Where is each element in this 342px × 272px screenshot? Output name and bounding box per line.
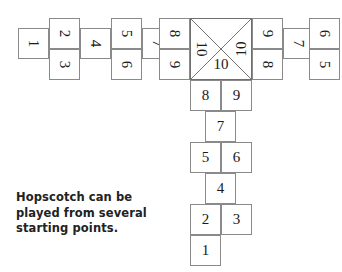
cell-bottom-6: 6 <box>221 142 252 173</box>
cell-number: 3 <box>233 212 241 227</box>
caption: Hopscotch can be played from several sta… <box>16 190 176 237</box>
cell-number: 9 <box>167 61 182 69</box>
cell-bottom-7: 7 <box>205 111 236 142</box>
cell-number: 3 <box>57 61 72 69</box>
cell-left-5: 5 <box>111 18 142 49</box>
cell-number: 9 <box>260 30 275 38</box>
cell-number: 2 <box>57 30 72 38</box>
cell-number: 1 <box>202 243 210 258</box>
cell-number: 1 <box>26 40 41 48</box>
caption-line-3: starting points. <box>16 221 176 237</box>
cell-left-3: 3 <box>49 49 80 80</box>
cell-left-6: 6 <box>111 49 142 80</box>
center-label-left: 10 <box>194 42 209 57</box>
caption-line-2: played from several <box>16 206 176 222</box>
cell-right-5: 5 <box>309 49 340 80</box>
cell-number: 5 <box>119 30 134 38</box>
center-label-right: 10 <box>234 42 249 57</box>
cell-number: 5 <box>317 61 332 69</box>
cell-bottom-1: 1 <box>190 235 221 266</box>
cell-number: 7 <box>291 40 306 48</box>
cell-left-9: 9 <box>159 49 190 80</box>
cell-number: 8 <box>167 30 182 38</box>
cell-number: 9 <box>233 88 241 103</box>
cell-number: 2 <box>202 212 210 227</box>
cell-number: 4 <box>217 181 225 196</box>
cell-bottom-4: 4 <box>205 173 236 204</box>
center-label-bottom: 10 <box>214 57 229 72</box>
cell-bottom-9: 9 <box>221 80 252 111</box>
cell-bottom-8: 8 <box>190 80 221 111</box>
hopscotch-diagram: 1 2 3 4 5 6 7 8 9 10 10 10 9 8 <box>0 0 342 272</box>
cell-number: 8 <box>202 88 210 103</box>
cell-number: 6 <box>317 30 332 38</box>
cell-number: 7 <box>217 119 225 134</box>
cell-number: 4 <box>88 40 103 48</box>
cell-number: 6 <box>233 150 241 165</box>
caption-line-1: Hopscotch can be <box>16 190 176 206</box>
cell-bottom-3: 3 <box>221 204 252 235</box>
cell-left-8: 8 <box>159 18 190 49</box>
cell-right-6: 6 <box>309 18 340 49</box>
cell-left-4: 4 <box>80 28 111 59</box>
cell-number: 8 <box>260 61 275 69</box>
cell-bottom-5: 5 <box>190 142 221 173</box>
cell-bottom-2: 2 <box>190 204 221 235</box>
cell-number: 5 <box>202 150 210 165</box>
center-square: 10 10 10 <box>190 18 252 80</box>
cell-number: 6 <box>119 61 134 69</box>
cell-right-8: 8 <box>252 49 283 80</box>
cell-right-9: 9 <box>252 18 283 49</box>
cell-left-2: 2 <box>49 18 80 49</box>
cell-left-1: 1 <box>18 28 49 59</box>
